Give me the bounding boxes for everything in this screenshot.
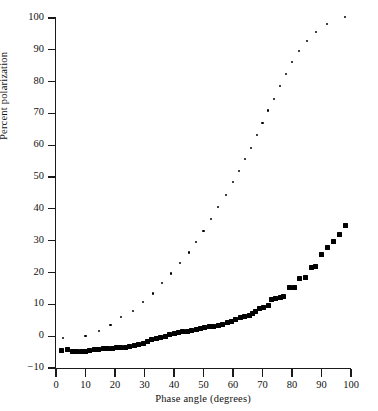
- data-point-upper-branch: [84, 335, 86, 337]
- data-point-upper-branch: [179, 262, 181, 264]
- y-tick-label-10: 10: [34, 298, 45, 309]
- y-axis-label: Percent polarization: [0, 10, 9, 140]
- data-point-lower-branch: [331, 239, 336, 244]
- data-point-lower-branch: [319, 252, 324, 257]
- data-point-upper-branch: [250, 147, 252, 149]
- y-tick-0: [48, 336, 56, 337]
- plot-area: [56, 18, 351, 368]
- data-point-upper-branch: [132, 310, 134, 312]
- x-tick-50: [203, 369, 204, 377]
- y-tick-label-0: 0: [39, 330, 44, 341]
- figure-root: −100102030405060708090100 01020304050607…: [0, 0, 378, 411]
- data-point-upper-branch: [202, 230, 204, 232]
- y-tick-100: [48, 17, 56, 18]
- y-tick-10: [48, 304, 56, 305]
- data-point-upper-branch: [109, 324, 111, 326]
- x-tick-label-100: 100: [331, 379, 371, 390]
- data-point-lower-branch: [337, 232, 342, 237]
- y-tick-label-20: 20: [34, 267, 45, 278]
- y-tick-30: [48, 240, 56, 241]
- x-tick-30: [144, 369, 145, 377]
- data-point-lower-branch: [325, 245, 330, 250]
- x-tick-80: [291, 369, 292, 377]
- data-point-lower-branch: [303, 275, 308, 280]
- y-tick-80: [48, 81, 56, 82]
- x-tick-60: [232, 369, 233, 377]
- y-tick-label-60: 60: [34, 139, 45, 150]
- data-point-upper-branch: [256, 134, 258, 136]
- data-point-lower-branch: [266, 303, 271, 308]
- x-tick-100: [350, 369, 351, 377]
- data-point-lower-branch: [343, 223, 348, 228]
- x-tick-0: [55, 369, 56, 377]
- data-point-upper-branch: [170, 272, 172, 274]
- y-tick-label-40: 40: [34, 203, 45, 214]
- data-point-upper-branch: [188, 251, 190, 253]
- data-point-lower-branch: [281, 294, 286, 299]
- y-tick-label-50: 50: [34, 171, 45, 182]
- y-tick-90: [48, 49, 56, 50]
- data-point-lower-branch: [287, 285, 292, 290]
- data-point-lower-branch: [297, 276, 302, 281]
- x-tick-10: [85, 369, 86, 377]
- data-point-lower-branch: [292, 285, 297, 290]
- y-tick-label-90: 90: [34, 44, 45, 55]
- y-tick-50: [48, 176, 56, 177]
- data-point-upper-branch: [232, 181, 234, 183]
- y-tick-70: [48, 113, 56, 114]
- x-tick-70: [262, 369, 263, 377]
- data-point-lower-branch: [313, 264, 318, 269]
- y-tick-label-30: 30: [34, 235, 45, 246]
- y-tick-label-100: 100: [28, 12, 44, 23]
- y-tick-40: [48, 208, 56, 209]
- y-tick-60: [48, 145, 56, 146]
- x-tick-90: [321, 369, 322, 377]
- data-point-upper-branch: [306, 40, 308, 42]
- x-tick-40: [173, 369, 174, 377]
- y-tick-label-70: 70: [34, 107, 45, 118]
- data-point-lower-branch: [59, 348, 64, 353]
- x-axis-label: Phase angle (degrees): [55, 393, 351, 404]
- data-point-upper-branch: [315, 31, 317, 33]
- data-point-upper-branch: [98, 330, 100, 332]
- y-tick-20: [48, 272, 56, 273]
- y-tick-label--10: −10: [28, 362, 44, 373]
- x-tick-20: [114, 369, 115, 377]
- y-tick-label-80: 80: [34, 76, 45, 87]
